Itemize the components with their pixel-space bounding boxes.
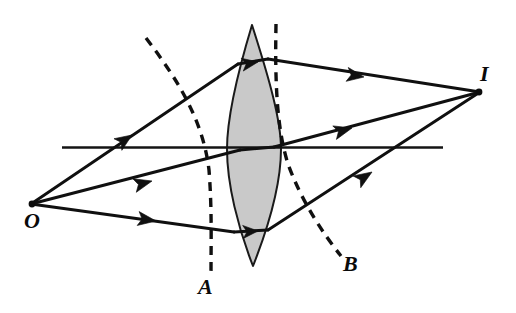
lower-ray-refracted xyxy=(268,92,480,230)
image-point-label: I xyxy=(480,63,489,85)
ray-diagram-canvas xyxy=(0,0,516,313)
object-point-label: O xyxy=(24,210,40,232)
wavefront-a-label: A xyxy=(198,276,213,298)
object-point-dot xyxy=(29,201,36,208)
upper-ray-incident xyxy=(31,64,238,204)
image-point-dot xyxy=(476,89,483,96)
optics-diagram: O I A B xyxy=(0,0,516,313)
upper-ray-refracted xyxy=(268,59,480,92)
middle-ray-refracted xyxy=(274,92,480,147)
wavefront-b-curve xyxy=(276,24,341,256)
upper-ray-arrow-3 xyxy=(346,67,365,83)
middle-ray-incident xyxy=(31,150,240,204)
wavefront-b-label: B xyxy=(343,253,358,275)
lower-ray-incident xyxy=(31,204,234,232)
lower-ray-arrow-3 xyxy=(353,166,376,188)
wavefront-a-curve xyxy=(146,38,211,272)
